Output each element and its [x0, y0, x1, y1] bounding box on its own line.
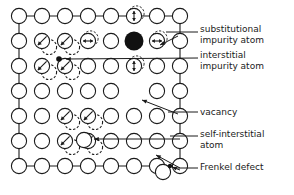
displaced-atom-ghost-layer: [41, 6, 167, 155]
lattice-atom: [172, 33, 187, 48]
substitutional-impurity-atom: [125, 32, 144, 51]
label-interstitial-impurity-atom: interstitial impurity atom: [200, 50, 264, 71]
lattice-atom: [57, 158, 72, 173]
lattice-atom: [34, 83, 49, 98]
lattice-atom: [172, 108, 187, 123]
lattice-atom: [80, 158, 95, 173]
lattice-atom: [149, 108, 164, 123]
frenkel-vacancy-dot: [168, 164, 172, 168]
lattice-atom: [149, 58, 164, 73]
lattice-atom: [172, 83, 187, 98]
self-interstitial-atom: [76, 132, 91, 147]
lattice-atom: [11, 158, 26, 173]
lattice-atom: [11, 8, 26, 23]
label-substitutional-impurity-atom: substitutional impurity atom: [200, 24, 264, 45]
label-frenkel-defect: Frenkel defect: [200, 162, 264, 173]
lattice-atom: [11, 83, 26, 98]
lattice-atom: [103, 108, 118, 123]
lattice-atom: [11, 108, 26, 123]
interstitial-impurity-dot: [56, 56, 62, 62]
leader-line-layer: [66, 32, 198, 171]
label-vacancy: vacancy: [200, 107, 237, 118]
lattice-atom: [103, 83, 118, 98]
defect-marker-layer: [56, 32, 172, 180]
lattice-atom: [172, 158, 187, 173]
lattice-atom: [126, 158, 141, 173]
lattice-atom: [34, 133, 49, 148]
lattice-atom: [103, 158, 118, 173]
lattice-atom: [80, 8, 95, 23]
label-self-interstitial-atom: self-interstitial atom: [200, 129, 264, 150]
lattice-atom: [172, 8, 187, 23]
lattice-atom: [103, 33, 118, 48]
lattice-atom: [57, 83, 72, 98]
lattice-atom: [57, 8, 72, 23]
lattice-atom: [11, 58, 26, 73]
lattice-atom: [34, 108, 49, 123]
lattice-atom: [103, 133, 118, 148]
lattice-atom-layer: [11, 8, 187, 173]
lattice-atom: [11, 133, 26, 148]
lattice-atom: [149, 133, 164, 148]
lattice-atom: [149, 83, 164, 98]
lattice-atom: [103, 58, 118, 73]
lattice-atom: [103, 8, 118, 23]
lattice-atom: [34, 8, 49, 23]
lattice-atom: [126, 108, 141, 123]
lattice-atom: [11, 33, 26, 48]
lattice-atom: [126, 133, 141, 148]
lattice-atom: [172, 58, 187, 73]
arrow-vacancy-head: [142, 100, 147, 104]
lattice-atom: [80, 58, 95, 73]
lattice-atom: [149, 8, 164, 23]
point-defects-figure: substitutional impurity atom interstitia…: [0, 0, 294, 195]
lattice-atom: [34, 158, 49, 173]
lattice-atom: [80, 83, 95, 98]
